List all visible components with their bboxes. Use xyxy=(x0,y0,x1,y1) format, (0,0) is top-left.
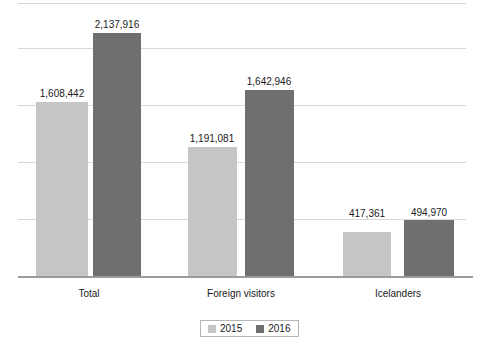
bar-icelanders-2015[interactable] xyxy=(343,232,391,277)
bar-label-icelanders-2015: 417,361 xyxy=(332,208,402,219)
legend-item-2016[interactable]: 2016 xyxy=(256,323,290,334)
x-axis-line xyxy=(18,276,473,278)
bar-foreign-visitors-2015[interactable] xyxy=(188,147,237,277)
bar-foreign-visitors-2016[interactable] xyxy=(245,90,294,277)
bar-total-2016[interactable] xyxy=(93,33,141,277)
legend-label-2015: 2015 xyxy=(220,323,242,334)
bar-label-foreign-visitors-2015: 1,191,081 xyxy=(177,133,247,144)
gridline xyxy=(18,48,466,49)
legend-swatch-icon-2016 xyxy=(256,325,264,333)
gridline xyxy=(18,3,466,4)
legend-swatch-icon-2015 xyxy=(208,325,216,333)
bar-label-icelanders-2016: 494,970 xyxy=(394,207,464,218)
x-axis-label-total: Total xyxy=(53,288,125,300)
bar-label-total-2016: 2,137,916 xyxy=(82,19,152,30)
bar-icelanders-2016[interactable] xyxy=(404,220,454,277)
legend-item-2015[interactable]: 2015 xyxy=(208,323,242,334)
chart-legend: 2015 2016 xyxy=(200,320,299,337)
bar-label-total-2015: 1,608,442 xyxy=(27,88,97,99)
bar-label-foreign-visitors-2016: 1,642,946 xyxy=(234,76,304,87)
plot-area: 1,608,442 2,137,916 1,191,081 1,642,946 … xyxy=(0,0,485,280)
bar-chart: 1,608,442 2,137,916 1,191,081 1,642,946 … xyxy=(0,0,485,353)
x-axis-label-icelanders: Icelanders xyxy=(362,288,434,300)
legend-label-2016: 2016 xyxy=(268,323,290,334)
x-axis-label-foreign-visitors: Foreign visitors xyxy=(205,288,277,300)
bar-total-2015[interactable] xyxy=(36,102,88,277)
